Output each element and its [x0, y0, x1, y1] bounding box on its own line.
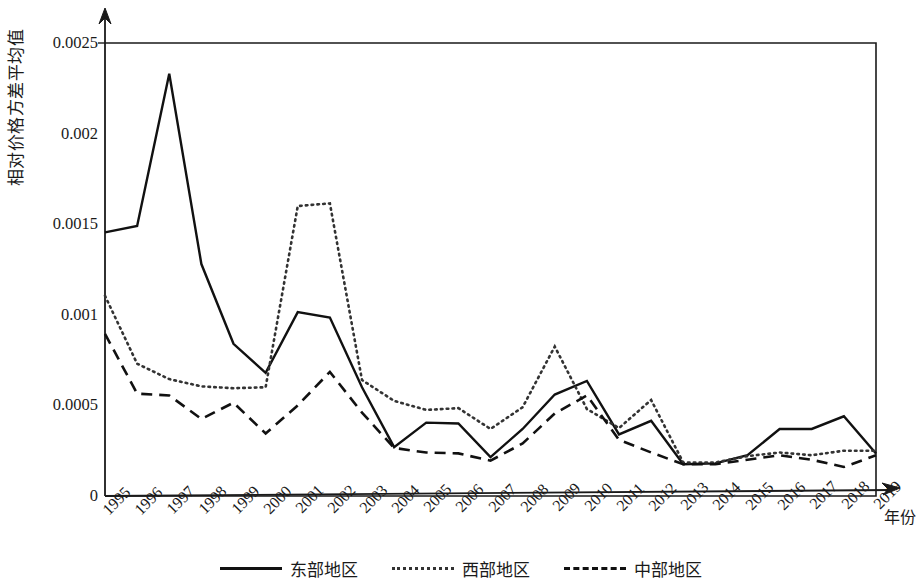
chart-figure: 相对价格方差平均值 00.00050.0010.00150.0020.0025 …: [0, 0, 921, 588]
legend-item-central[interactable]: 中部地区: [564, 556, 702, 581]
legend-item-east[interactable]: 东部地区: [220, 556, 358, 581]
x-axis-title: 年份: [884, 504, 916, 528]
y-tick-label: 0.0005: [18, 395, 98, 415]
series-line-3: [105, 334, 876, 467]
y-axis-tick-labels: 00.00050.0010.00150.0020.0025: [10, 0, 98, 588]
legend-item-west[interactable]: 西部地区: [392, 556, 530, 581]
series-lines: [105, 74, 876, 467]
y-tick-label: 0.0015: [18, 214, 98, 234]
plot-frame: [105, 43, 876, 496]
legend-label-east: 东部地区: [290, 556, 358, 581]
series-line-1: [105, 74, 876, 464]
legend-swatch-solid-icon: [220, 567, 282, 570]
legend-swatch-dotted-icon: [392, 567, 454, 570]
y-tick-label: 0.001: [18, 305, 98, 325]
y-tick-label: 0: [18, 486, 98, 506]
legend-swatch-dashed-icon: [564, 567, 626, 570]
y-tick-label: 0.0025: [18, 33, 98, 53]
series-line-2: [105, 203, 876, 462]
chart-legend: 东部地区 西部地区 中部地区: [0, 556, 921, 581]
y-tick-label: 0.002: [18, 124, 98, 144]
legend-label-central: 中部地区: [634, 556, 702, 581]
legend-label-west: 西部地区: [462, 556, 530, 581]
